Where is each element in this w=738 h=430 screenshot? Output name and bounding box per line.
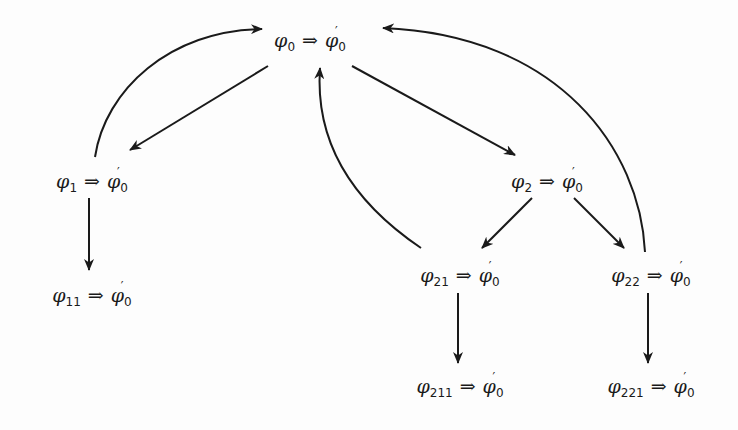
prime-mark: ′ [684,372,687,384]
rhs-formula-subscript: 0 [120,181,128,195]
implies-arrow-icon: ⇒ [302,29,318,51]
implies-arrow-icon: ⇒ [88,284,104,306]
lhs-formula-symbol: φ [56,170,69,192]
node-n2: φ2⇒φ′0 [511,172,583,194]
node-n221: φ221⇒φ′0 [607,377,694,399]
lhs-formula-symbol: φ [511,170,524,192]
edge-n1-to-n0-arrow-icon [95,29,262,157]
rhs-formula-subscript: 0 [338,40,346,54]
implies-arrow-icon: ⇒ [456,264,472,286]
edges-layer [0,0,738,430]
node-n0: φ0⇒φ′0 [274,31,346,53]
lhs-formula-subscript: 11 [66,295,81,309]
lhs-formula-symbol: φ [607,375,620,397]
prime-mark: ′ [489,261,492,273]
lhs-formula-subscript: 211 [430,386,453,400]
prime-mark: ′ [572,167,575,179]
lhs-formula-symbol: φ [274,29,287,51]
node-n211: φ211⇒φ′0 [416,377,503,399]
implies-arrow-icon: ⇒ [647,264,663,286]
implies-arrow-icon: ⇒ [539,170,555,192]
edge-n0-to-n2-arrow-icon [352,66,515,155]
prime-mark: ′ [493,372,496,384]
rhs-formula-subscript: 0 [492,275,500,289]
edge-n0-to-n1-arrow-icon [130,66,268,150]
rhs-formula-subscript: 0 [687,386,695,400]
lhs-formula-subscript: 2 [524,181,532,195]
derivation-tree-diagram: φ0⇒φ′0φ1⇒φ′0φ11⇒φ′0φ2⇒φ′0φ21⇒φ′0φ22⇒φ′0φ… [0,0,738,430]
prime-mark: ′ [335,26,338,38]
lhs-formula-symbol: φ [420,264,433,286]
prime-mark: ′ [117,167,120,179]
implies-arrow-icon: ⇒ [651,375,667,397]
rhs-formula-subscript: 0 [683,275,691,289]
prime-mark: ′ [680,261,683,273]
lhs-formula-symbol: φ [416,375,429,397]
implies-arrow-icon: ⇒ [460,375,476,397]
node-n22: φ22⇒φ′0 [611,266,690,288]
node-n21: φ21⇒φ′0 [420,266,499,288]
lhs-formula-subscript: 0 [287,40,295,54]
lhs-formula-subscript: 221 [621,386,644,400]
prime-mark: ′ [121,281,124,293]
lhs-formula-symbol: φ [611,264,624,286]
edge-n2-to-n21-arrow-icon [482,198,532,248]
lhs-formula-subscript: 22 [625,275,640,289]
rhs-formula-subscript: 0 [575,181,583,195]
edge-n2-to-n22-arrow-icon [574,198,624,248]
lhs-formula-subscript: 1 [69,181,77,195]
node-n11: φ11⇒φ′0 [52,286,131,308]
edge-n22-to-n0-arrow-icon [383,28,645,252]
lhs-formula-subscript: 21 [434,275,449,289]
lhs-formula-symbol: φ [52,284,65,306]
implies-arrow-icon: ⇒ [84,170,100,192]
node-n1: φ1⇒φ′0 [56,172,128,194]
rhs-formula-subscript: 0 [496,386,504,400]
rhs-formula-subscript: 0 [124,295,132,309]
